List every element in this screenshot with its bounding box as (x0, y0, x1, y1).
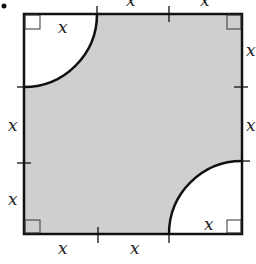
label-bottom-right: x (130, 238, 140, 258)
label-right-lower: x (246, 115, 256, 135)
label-left-upper: x (8, 115, 18, 135)
label-bottom-left: x (58, 238, 68, 258)
label-left-lower: x (8, 189, 18, 209)
right-angle-top-left (25, 15, 40, 29)
right-angle-bottom-right (227, 220, 241, 233)
label-right-upper: x (246, 40, 256, 60)
shaded-region (24, 14, 242, 234)
bullet-marker (2, 4, 7, 9)
label-top-right: x (200, 0, 210, 10)
geometry-diagram: x x x x x x x x x x (0, 0, 256, 264)
label-top-inner: x (58, 17, 68, 37)
label-top-left: x (126, 0, 136, 10)
label-bottom-inner: x (204, 214, 214, 234)
